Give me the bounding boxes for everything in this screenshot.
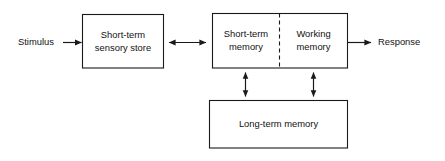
response-label: Response: [378, 36, 420, 47]
stimulus-label: Stimulus: [18, 36, 54, 47]
sensory-store-label-line1: Short-term: [101, 29, 145, 40]
working-memory-label-line1: Working: [296, 28, 330, 39]
working-memory-label-line2: memory: [297, 41, 331, 52]
diagram-canvas: Stimulus Short-term sensory store Short-…: [0, 0, 445, 161]
short-term-memory-label-line1: Short-term: [224, 28, 268, 39]
short-term-memory-label-line2: memory: [229, 41, 263, 52]
long-term-memory-label: Long-term memory: [239, 118, 319, 129]
memory-model-diagram: Stimulus Short-term sensory store Short-…: [0, 0, 445, 161]
sensory-store-label-line2: sensory store: [95, 42, 151, 53]
